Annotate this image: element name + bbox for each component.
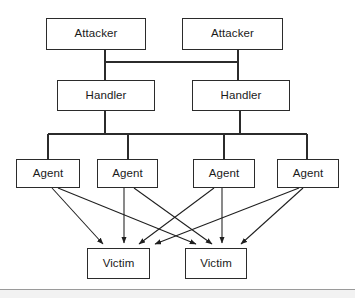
agent-to-victim-arrows (52, 188, 303, 244)
node-agent-4[interactable]: Agent (277, 159, 339, 188)
node-label-agent-2: Agent (112, 168, 143, 180)
page-bottom-rule (0, 289, 355, 290)
node-label-victim-2: Victim (200, 258, 232, 270)
node-agent-2[interactable]: Agent (97, 159, 158, 188)
arrow-agent4-to-victim2 (241, 188, 303, 244)
node-label-attacker-2: Attacker (211, 28, 254, 40)
node-label-attacker-1: Attacker (75, 28, 118, 40)
node-label-agent-4: Agent (293, 168, 324, 180)
node-agent-1[interactable]: Agent (16, 159, 80, 188)
node-victim-1[interactable]: Victim (87, 248, 150, 279)
node-label-victim-1: Victim (103, 258, 135, 270)
node-label-agent-3: Agent (209, 168, 240, 180)
node-label-agent-1: Agent (33, 168, 64, 180)
diagram-canvas: Attacker Attacker Handler Handler Agent … (0, 0, 355, 298)
arrow-agent2-to-victim2 (134, 188, 212, 244)
node-attacker-1[interactable]: Attacker (46, 18, 146, 50)
node-victim-2[interactable]: Victim (185, 248, 247, 279)
node-agent-3[interactable]: Agent (193, 159, 255, 188)
node-handler-1[interactable]: Handler (57, 80, 155, 111)
page-footer-band (0, 289, 355, 298)
node-label-handler-1: Handler (86, 90, 127, 102)
handler-to-agent-connectors (48, 111, 307, 159)
node-attacker-2[interactable]: Attacker (182, 18, 283, 50)
attacker-to-handler-connectors (105, 50, 238, 80)
node-label-handler-2: Handler (221, 90, 262, 102)
node-handler-2[interactable]: Handler (192, 80, 290, 111)
